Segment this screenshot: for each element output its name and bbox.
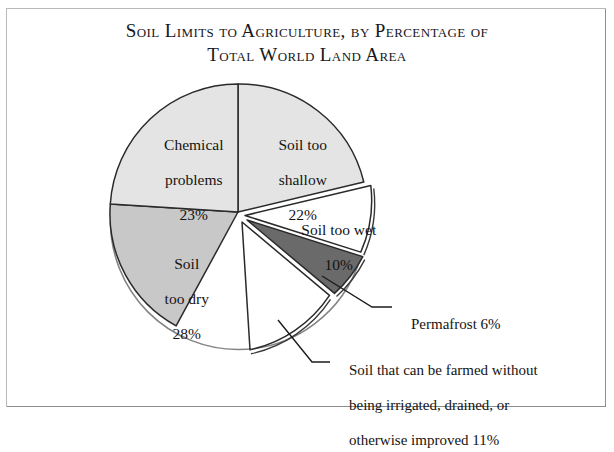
callout-farmable-line-3: otherwise improved 11% bbox=[349, 432, 499, 448]
label-soil-too-dry-line-2: too dry bbox=[165, 290, 209, 307]
callout-farmable: Soil that can be farmed without being ir… bbox=[334, 344, 538, 452]
label-chemical-problems: Chemical problems 23% bbox=[134, 118, 238, 241]
label-chemical-problems-value: 23% bbox=[180, 206, 208, 223]
label-soil-too-wet: Soil too wet 10% bbox=[272, 203, 390, 291]
label-soil-too-dry-value: 28% bbox=[173, 325, 201, 342]
callout-permafrost: Permafrost 6% bbox=[396, 298, 501, 351]
label-soil-too-shallow-line-2: shallow bbox=[279, 171, 327, 188]
label-soil-too-wet-line-1: Soil too wet bbox=[301, 221, 376, 238]
callout-farmable-line-1: Soil that can be farmed without bbox=[349, 362, 538, 378]
label-soil-too-wet-value: 10% bbox=[325, 256, 353, 273]
label-chemical-problems-line-1: Chemical bbox=[164, 136, 223, 153]
label-chemical-problems-line-2: problems bbox=[165, 171, 223, 188]
callout-farmable-line-2: being irrigated, drained, or bbox=[349, 397, 509, 413]
callout-permafrost-text: Permafrost 6% bbox=[411, 316, 501, 332]
label-soil-too-dry: Soil too dry 28% bbox=[130, 237, 228, 360]
label-soil-too-dry-line-1: Soil bbox=[174, 255, 199, 272]
label-soil-too-shallow-line-1: Soil too bbox=[278, 136, 327, 153]
